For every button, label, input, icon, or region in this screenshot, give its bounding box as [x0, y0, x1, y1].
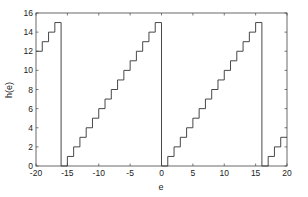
y-tick-label: 2	[28, 142, 33, 152]
x-tick-label: 5	[191, 168, 196, 178]
y-tick-label: 14	[24, 27, 34, 37]
y-tick-label: 0	[28, 161, 33, 171]
x-tick-label: -15	[61, 168, 74, 178]
x-tick-label: 20	[282, 168, 292, 178]
series-h-e	[36, 23, 287, 166]
y-tick-label: 10	[24, 65, 34, 75]
x-tick-labels: -20-15-10-505101520	[30, 168, 292, 178]
y-tick-label: 6	[28, 104, 33, 114]
y-tick-label: 4	[28, 123, 33, 133]
x-tick-label: -10	[93, 168, 106, 178]
step-chart: -20-15-10-505101520 0246810121416 e h(e)	[0, 0, 308, 197]
x-tick-label: 15	[251, 168, 261, 178]
y-tick-label: 16	[24, 8, 34, 18]
step-line	[36, 23, 287, 166]
y-axis-label: h(e)	[4, 82, 14, 98]
x-tick-label: 10	[220, 168, 230, 178]
x-tick-label: -5	[126, 168, 134, 178]
y-tick-label: 8	[28, 85, 33, 95]
y-tick-label: 12	[24, 46, 34, 56]
y-tick-labels: 0246810121416	[24, 8, 34, 171]
x-tick-label: 0	[159, 168, 164, 178]
x-axis-label: e	[158, 182, 163, 192]
